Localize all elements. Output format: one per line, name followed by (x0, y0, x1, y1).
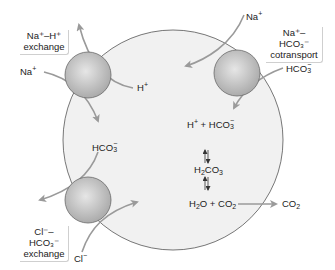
label-line1: Cl⁻–HCO₃⁻ (29, 226, 59, 248)
cl-ion-label: Cl− (74, 254, 87, 264)
co2-out-label: CO2 (282, 199, 300, 209)
h-ion-label: H+ (137, 83, 148, 93)
hco3-ion-label-cotransport: HCO−3 (286, 64, 313, 74)
label-line2: exchange (23, 248, 64, 259)
cell-diagram: Na⁺–H⁺ exchange Na⁺–HCO₃⁻ cotransport Cl… (0, 0, 335, 270)
na-hco3-cotransporter (214, 50, 260, 96)
label-line1: Na⁺–H⁺ (27, 30, 61, 41)
hco3-ion-label-exchange: HCO−3 (92, 143, 119, 153)
reaction-h2o-co2: H2O + CO2 (189, 199, 236, 209)
na-ion-label-exchange: Na+ (20, 67, 36, 77)
reaction-h-hco3: H+ + HCO−3 (187, 120, 236, 130)
reaction-h2co3: H2CO3 (194, 165, 223, 175)
label-line1: Na⁺–HCO₃⁻ (279, 27, 309, 49)
na-ion-label-cotransport: Na+ (246, 12, 262, 22)
na-h-exchanger (65, 52, 111, 98)
label-line2: exchange (23, 41, 64, 52)
cl-hco3-exchanger (65, 177, 111, 223)
na-h-exchange-label: Na⁺–H⁺ exchange (20, 30, 69, 55)
label-line2: cotransport (270, 49, 318, 60)
na-hco3-cotransport-label: Na⁺–HCO₃⁻ cotransport (266, 27, 323, 63)
cl-hco3-exchange-label: Cl⁻–HCO₃⁻ exchange (20, 226, 69, 262)
